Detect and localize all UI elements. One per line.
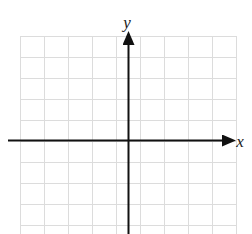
- figure-background: [0, 0, 252, 234]
- x-axis-label: x: [235, 132, 244, 151]
- coordinate-plane-figure: x y: [0, 0, 252, 234]
- coordinate-plane-svg: x y: [0, 0, 252, 234]
- y-axis-label: y: [121, 13, 131, 32]
